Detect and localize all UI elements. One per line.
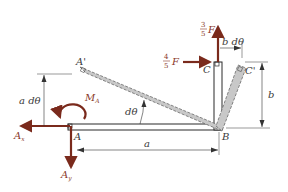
label-dim-b-dtheta: b dθ [222, 36, 244, 47]
forces [21, 27, 218, 167]
svg-text:5: 5 [164, 62, 168, 70]
label-angle-dtheta: dθ [125, 106, 137, 117]
label-ax: Ax [13, 130, 25, 142]
svg-text:5: 5 [201, 30, 205, 38]
rotated-member-aprime-b [80, 67, 222, 131]
svg-text:3: 3 [201, 21, 205, 29]
label-dim-a: a [144, 138, 150, 149]
angle-arc-dtheta [140, 100, 144, 124]
label-b: B [221, 131, 229, 142]
label-c: C [203, 64, 211, 75]
label-ma: MA [84, 92, 100, 104]
label-a: A [73, 131, 81, 142]
label-dim-a-dtheta: a dθ [19, 95, 41, 106]
moment-arrow-ma [60, 104, 86, 119]
label-ay: Ay [60, 169, 72, 182]
svg-text:4: 4 [164, 53, 169, 61]
label-3-5-f: 3 5 F [200, 21, 216, 38]
svg-text:F: F [207, 24, 216, 35]
virtual-work-diagram: A' A B C C' 3 5 F 4 5 F Ax Ay MA a dθ a … [0, 0, 288, 192]
label-a-prime: A' [75, 56, 86, 67]
label-c-prime: C' [245, 65, 255, 76]
label-dim-b: b [268, 89, 274, 100]
svg-text:F: F [171, 56, 180, 67]
label-4-5-f: 4 5 F [163, 53, 180, 70]
horizontal-member-ab [68, 124, 222, 130]
